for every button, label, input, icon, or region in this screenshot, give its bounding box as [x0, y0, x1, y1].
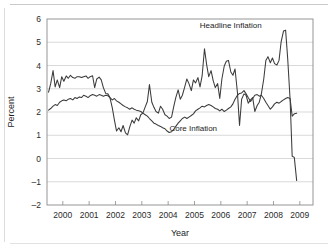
inflation-chart-figure: 6543210–1–2 2000200120022003200420052006… [0, 0, 330, 250]
x-tick-label-2007: 2007 [238, 210, 257, 220]
x-tick-label-2004: 2004 [159, 210, 178, 220]
y-tick-label--2: –2 [32, 200, 42, 210]
x-axis-title: Year [171, 228, 189, 238]
y-tick-label-3: 3 [36, 84, 41, 94]
gridlines-group [47, 42, 313, 182]
tickmarks-group [63, 201, 300, 205]
x-tick-label-2006: 2006 [211, 210, 230, 220]
left-divider-rule [4, 8, 5, 242]
annotation-core-inflation: Core Inflation [169, 124, 217, 133]
x-tick-label-2003: 2003 [132, 210, 151, 220]
x-tick-label-2005: 2005 [185, 210, 204, 220]
series-group [49, 30, 297, 180]
series-annotations-group: Headline InflationCore Inflation [169, 21, 261, 133]
top-divider-rule [10, 4, 328, 5]
x-tick-label-2001: 2001 [80, 210, 99, 220]
annotation-headline-inflation: Headline Inflation [200, 21, 262, 30]
y-tick-label-5: 5 [36, 37, 41, 47]
y-tick-label-2: 2 [36, 107, 41, 117]
x-tick-labels-group: 2000200120022003200420052006200720082009 [53, 210, 309, 220]
bottom-divider-rule [10, 243, 328, 244]
y-tick-label-0: 0 [36, 154, 41, 164]
y-tick-label-1: 1 [36, 130, 41, 140]
line-chart: 6543210–1–2 2000200120022003200420052006… [0, 0, 330, 250]
x-tick-label-2008: 2008 [264, 210, 283, 220]
y-axis-title: Percent [6, 96, 16, 128]
y-tick-label-4: 4 [36, 61, 41, 71]
y-tick-label--1: –1 [32, 177, 42, 187]
series-line-headline-inflation [49, 30, 297, 180]
y-tick-labels-group: 6543210–1–2 [32, 14, 42, 210]
y-tick-label-6: 6 [36, 14, 41, 24]
x-tick-label-2000: 2000 [53, 210, 72, 220]
x-tick-label-2002: 2002 [106, 210, 125, 220]
x-tick-label-2009: 2009 [290, 210, 309, 220]
